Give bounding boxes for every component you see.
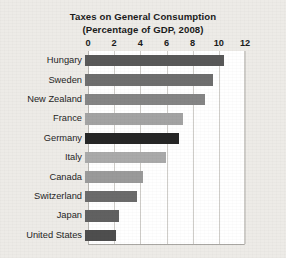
bar-rows: HungarySwedenNew ZealandFranceGermanyIta… [0,51,286,245]
bar-category-label: Hungary [0,55,85,66]
bar-row: Italy [0,148,286,167]
bar-row: Hungary [0,51,286,70]
bar-row: Germany [0,129,286,148]
bar-sweden [85,74,213,86]
bar-track [85,148,242,167]
bar-track [85,90,242,109]
bar-track [85,187,242,206]
bar-canada [85,171,143,183]
x-axis-tick-6: 6 [164,38,169,49]
bar-row: New Zealand [0,90,286,109]
bar-category-label: France [0,113,85,124]
bar-row: United States [0,226,286,245]
bar-category-label: Switzerland [0,191,85,202]
bar-row: Canada [0,167,286,186]
bar-category-label: Germany [0,133,85,144]
bar-track [85,51,242,70]
bar-track [85,206,242,225]
bar-italy [85,152,166,164]
bar-category-label: Canada [0,172,85,183]
bar-new-zealand [85,94,205,106]
chart-subtitle: (Percentage of GDP, 2008) [0,24,286,37]
chart-title: Taxes on General Consumption [0,11,286,24]
bar-germany [85,133,179,145]
bar-track [85,109,242,128]
bar-category-label: New Zealand [0,94,85,105]
chart-figure: Taxes on General Consumption (Percentage… [0,0,286,258]
chart-title-block: Taxes on General Consumption (Percentage… [0,11,286,36]
bar-row: Japan [0,206,286,225]
bar-category-label: Sweden [0,75,85,86]
x-axis-tick-2: 2 [112,38,117,49]
x-axis-tick-8: 8 [190,38,195,49]
bar-track [85,70,242,89]
bar-hungary [85,55,224,67]
bar-category-label: United States [0,230,85,241]
bar-track [85,226,242,245]
bar-japan [85,210,119,222]
bar-category-label: Japan [0,210,85,221]
x-axis-tick-0: 0 [85,38,90,49]
x-axis-tick-10: 10 [214,38,224,49]
x-axis-tick-4: 4 [138,38,143,49]
x-axis-tick-12: 12 [240,38,250,49]
bar-track [85,167,242,186]
bar-track [85,129,242,148]
bar-category-label: Italy [0,152,85,163]
x-axis-tick-labels: 024681012 [0,38,286,51]
bar-united-states [85,230,116,242]
bar-row: France [0,109,286,128]
bar-france [85,113,183,125]
bar-switzerland [85,191,137,203]
bar-row: Switzerland [0,187,286,206]
bar-row: Sweden [0,70,286,89]
